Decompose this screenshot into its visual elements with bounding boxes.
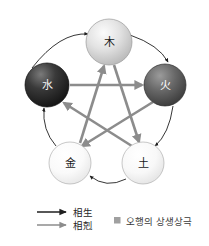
wuxing-diagram-figure: 木 火 水 金 土 相生 相剋 xyxy=(0,0,209,246)
legend: 相生 相剋 오행의 상생상극 xyxy=(37,207,192,231)
generation-edge-fire-to-earth xyxy=(155,106,173,146)
overcoming-edge-metal-to-wood xyxy=(80,66,104,143)
water-label: 水 xyxy=(42,79,53,92)
overcoming-edge-earth-to-water xyxy=(64,103,135,148)
generation-edge-wood-to-fire xyxy=(130,35,168,62)
legend-caption-text: 오행의 상생상극 xyxy=(126,216,192,227)
fire-label: 火 xyxy=(160,79,171,92)
element-node-fire[interactable]: 火 xyxy=(144,64,186,106)
overcoming-cycle-group xyxy=(64,65,153,148)
legend-caption-group: 오행의 상생상극 xyxy=(114,216,192,227)
diagram-canvas: 木 火 水 金 土 相生 相剋 xyxy=(0,0,209,246)
legend-generation-label: 相生 xyxy=(73,207,93,218)
legend-item-overcoming: 相剋 xyxy=(37,220,93,231)
element-node-water[interactable]: 水 xyxy=(25,63,69,107)
wood-label: 木 xyxy=(104,36,115,49)
legend-item-generation: 相生 xyxy=(37,207,93,218)
square-bullet-icon xyxy=(114,217,121,224)
element-node-wood[interactable]: 木 xyxy=(86,19,132,65)
element-node-earth[interactable]: 土 xyxy=(122,142,164,184)
generation-edge-water-to-wood xyxy=(32,34,88,68)
element-node-metal[interactable]: 金 xyxy=(49,142,91,184)
legend-overcoming-label: 相剋 xyxy=(73,220,93,231)
overcoming-edge-wood-to-earth xyxy=(114,65,139,142)
generation-edge-metal-to-water xyxy=(44,108,56,146)
earth-label: 土 xyxy=(138,157,149,170)
overcoming-edge-fire-to-metal xyxy=(82,102,153,146)
generation-edge-earth-to-metal xyxy=(90,176,126,183)
metal-label: 金 xyxy=(65,156,76,170)
